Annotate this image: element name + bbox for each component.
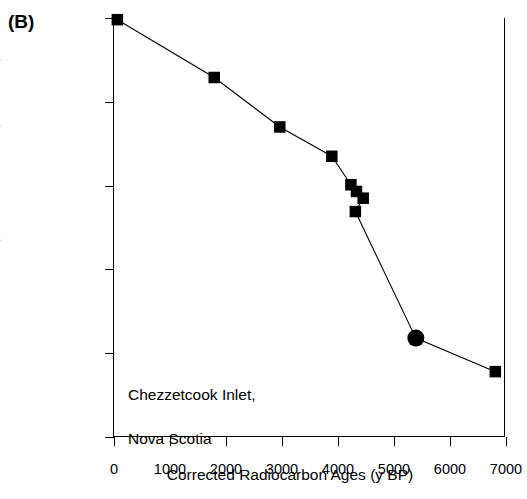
data-point-square [326,151,338,163]
data-markers [112,14,502,377]
x-tick-label: 3000 [252,462,312,477]
x-tick-label: 6000 [420,462,480,477]
annotation-line-2: Nova Scotia [128,428,256,450]
x-tick-mark [114,437,115,446]
x-tick-label: 5000 [364,462,424,477]
data-point-square [490,366,502,378]
x-tick-mark [282,437,283,446]
data-point-square [112,14,124,26]
x-tick-mark [506,437,507,446]
data-point-square [274,121,286,133]
x-tick-mark [450,437,451,446]
data-line [117,20,495,372]
data-point-circle [407,330,424,347]
y-tick-mark [105,437,114,438]
data-point-square [350,206,362,218]
data-point-square [357,192,369,204]
x-tick-label: 7000 [476,462,527,477]
x-tick-mark [394,437,395,446]
y-axis-title: Depth below HHW (in meters) [0,0,1,339]
y-tick-mark [105,18,114,19]
panel-label: (B) [8,12,34,31]
x-tick-mark [338,437,339,446]
y-tick-mark [105,269,114,270]
x-tick-label: 4000 [308,462,368,477]
y-tick-mark [105,102,114,103]
y-tick-mark [105,186,114,187]
site-annotation: Chezzetcook Inlet, Nova Scotia [128,362,256,472]
annotation-line-1: Chezzetcook Inlet, [128,384,256,406]
y-tick-mark [105,353,114,354]
data-point-square [208,72,220,84]
